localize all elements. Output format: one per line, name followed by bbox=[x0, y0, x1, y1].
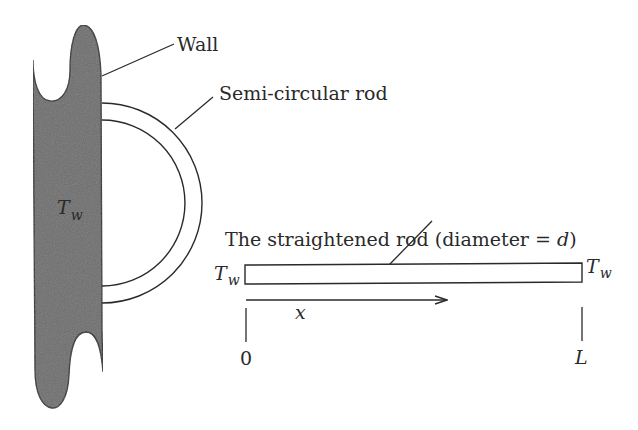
semi-rod-outer-arc bbox=[102, 103, 202, 303]
semi-rod-inner-arc bbox=[102, 120, 185, 286]
semi-circular-rod bbox=[102, 103, 202, 303]
right-end-temperature-label: Tw bbox=[586, 255, 612, 281]
left-end-temperature-label: Tw bbox=[214, 262, 240, 288]
semi-rod-label: Semi-circular rod bbox=[219, 82, 388, 104]
wall: Tw bbox=[33, 25, 103, 408]
diagram-canvas: Tw Wall Semi-circular rod The straighten… bbox=[0, 0, 638, 430]
x-axis-label: x bbox=[295, 301, 306, 323]
straight-rod-label: The straightened rod (diameter = d) bbox=[225, 228, 577, 250]
origin-label: 0 bbox=[240, 347, 252, 369]
wall-label: Wall bbox=[177, 33, 218, 55]
rod-heat-diagram: Tw Wall Semi-circular rod The straighten… bbox=[0, 0, 638, 430]
straightened-rod bbox=[245, 263, 582, 284]
semi-rod-leader-line bbox=[175, 97, 213, 129]
wall-leader-line bbox=[102, 44, 174, 76]
length-label: L bbox=[574, 346, 588, 368]
